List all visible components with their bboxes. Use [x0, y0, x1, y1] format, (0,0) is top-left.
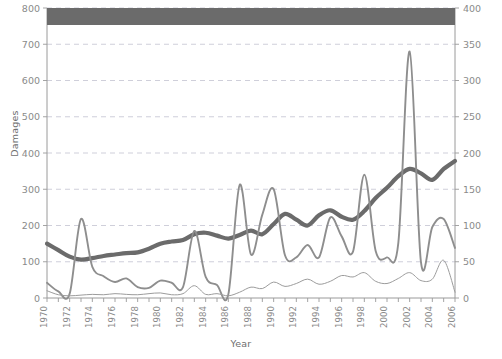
- svg-text:1994: 1994: [311, 306, 321, 328]
- svg-text:200: 200: [463, 148, 481, 159]
- series-line-0: [47, 161, 455, 260]
- svg-text:0: 0: [34, 293, 40, 304]
- svg-text:100: 100: [22, 256, 40, 267]
- svg-text:2002: 2002: [402, 306, 412, 328]
- x-axis-title: Year: [206, 338, 276, 349]
- svg-text:1984: 1984: [198, 306, 208, 328]
- svg-text:0: 0: [463, 293, 469, 304]
- svg-text:1986: 1986: [220, 306, 230, 328]
- svg-text:2000: 2000: [379, 306, 389, 328]
- svg-text:200: 200: [22, 220, 40, 231]
- chart-canvas: 0100200300400500600700800 05010015020025…: [0, 0, 502, 359]
- data-series: [47, 51, 455, 300]
- svg-text:350: 350: [463, 39, 481, 50]
- svg-text:300: 300: [463, 75, 481, 86]
- svg-text:250: 250: [463, 111, 481, 122]
- svg-text:500: 500: [22, 111, 40, 122]
- svg-text:1998: 1998: [356, 306, 366, 328]
- svg-text:1992: 1992: [288, 306, 298, 328]
- chart-figure: 0100200300400500600700800 05010015020025…: [0, 0, 502, 359]
- svg-text:400: 400: [463, 3, 481, 14]
- svg-text:1980: 1980: [152, 306, 162, 328]
- svg-text:100: 100: [463, 220, 481, 231]
- svg-text:1970: 1970: [39, 306, 49, 328]
- svg-text:1988: 1988: [243, 306, 253, 328]
- redacted-banner: [47, 8, 455, 25]
- svg-text:1990: 1990: [266, 306, 276, 328]
- svg-text:1972: 1972: [62, 306, 72, 328]
- y2-axis-tick-labels: 050100150200250300350400: [463, 3, 481, 304]
- svg-text:1976: 1976: [107, 306, 117, 328]
- x-axis-tick-labels: 1970197219741976197819801982198419861988…: [39, 306, 457, 328]
- svg-text:1978: 1978: [130, 306, 140, 328]
- y-axis-tick-labels: 0100200300400500600700800: [22, 3, 40, 304]
- svg-text:2004: 2004: [424, 306, 434, 328]
- svg-text:700: 700: [22, 39, 40, 50]
- gridlines: [47, 8, 455, 262]
- svg-text:1974: 1974: [84, 306, 94, 328]
- svg-text:50: 50: [463, 256, 475, 267]
- svg-text:300: 300: [22, 184, 40, 195]
- y-axis-title: Damages: [9, 94, 20, 174]
- svg-text:2006: 2006: [447, 306, 457, 328]
- series-line-1: [47, 51, 455, 300]
- svg-text:800: 800: [22, 3, 40, 14]
- series-line-2: [47, 260, 455, 296]
- svg-text:150: 150: [463, 184, 481, 195]
- svg-text:1996: 1996: [334, 306, 344, 328]
- svg-text:600: 600: [22, 75, 40, 86]
- svg-text:400: 400: [22, 148, 40, 159]
- svg-text:1982: 1982: [175, 306, 185, 328]
